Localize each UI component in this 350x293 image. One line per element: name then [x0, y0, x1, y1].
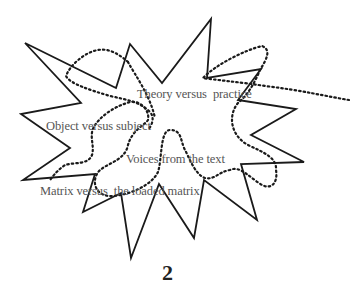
label-object-subject: Object versus subject — [46, 120, 151, 133]
label-voices-text: Voices from the text — [126, 153, 225, 166]
starburst-outline — [21, 19, 304, 258]
label-matrix-loaded: Matrix versus the loaded matrix — [40, 185, 200, 198]
page-number: 2 — [162, 262, 173, 284]
label-theory-practice: Theory versus practice — [137, 88, 252, 101]
starburst-diagram — [0, 0, 350, 293]
diagram-canvas: Theory versus practice Object versus sub… — [0, 0, 350, 293]
